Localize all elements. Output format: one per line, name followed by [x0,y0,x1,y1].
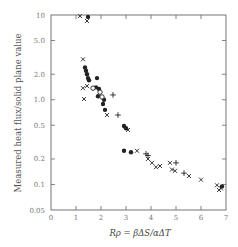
data-point-filled-circle [101,102,105,106]
y-axis-ticks: 105.02.01.00.50.20.10.05 [29,12,226,215]
y-axis-label: Measured heat flux/solid plane value [13,34,23,193]
data-point-filled-circle [86,15,90,19]
data-point-cross [187,174,191,178]
data-point-filled-circle [87,78,91,82]
x-tick-label: 4 [149,214,154,222]
data-point-open-circle [100,95,104,99]
y-tick-label: 2.0 [34,71,45,79]
x-tick-label: 5 [174,214,178,222]
y-tick-label: 10 [36,12,45,20]
data-point-cross [81,86,85,90]
data-point-plus [115,112,121,118]
data-point-filled-circle [129,150,133,154]
x-tick-label: 7 [224,214,228,222]
data-point-open-circle [91,86,95,90]
data-point-plus [110,92,116,98]
data-point-plus [173,160,179,166]
y-tick-label: 0.2 [34,155,45,163]
x-axis-label: Rρ = βΔS/αΔT [108,228,172,238]
data-point-cross [85,19,89,23]
data-point-filled-circle [95,76,99,80]
scatter-chart: 105.02.01.00.50.20.10.05 01234567 Measur… [0,0,238,247]
data-point-cross [81,57,85,61]
data-point-open-circle [98,90,102,94]
x-tick-label: 1 [74,214,78,222]
data-point-cross [150,161,154,165]
data-point-filled-circle [220,184,224,188]
data-point-cross [199,178,203,182]
data-point-cross [85,84,89,88]
x-axis-ticks: 01234567 [49,15,228,222]
x-tick-label: 0 [49,214,53,222]
data-point-filled-circle [122,149,126,153]
data-point-cross [135,149,139,153]
y-tick-label: 0.1 [34,181,45,189]
data-points [78,14,224,192]
x-tick-label: 3 [124,214,128,222]
data-point-filled-circle [124,126,128,130]
data-point-filled-circle [103,108,107,112]
data-point-cross [215,183,219,187]
data-point-cross [82,97,86,101]
data-point-cross [158,164,162,168]
y-tick-label: 1.0 [34,96,45,104]
data-point-cross [105,113,109,117]
data-point-cross [168,161,172,165]
data-point-filled-circle [85,72,89,76]
x-tick-label: 6 [199,214,204,222]
x-tick-label: 2 [99,214,103,222]
y-tick-label: 0.5 [34,122,45,130]
data-point-cross [154,165,158,169]
y-tick-label: 0.05 [29,207,45,215]
y-tick-label: 5.0 [34,37,45,45]
data-point-plus [181,170,187,176]
